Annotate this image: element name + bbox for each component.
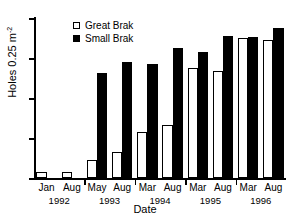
plot-area: 050100150200	[34, 18, 286, 178]
x-tick-label-aug-1996: Aug	[264, 182, 282, 193]
bar-great-brak-mar-1995	[188, 68, 198, 178]
x-axis-group-separator-1993	[84, 178, 85, 185]
bar-great-brak-mar-1994	[137, 132, 147, 178]
y-axis-title-text: Holes 0.25 m	[6, 33, 18, 98]
x-tick-label-mar-1994: Mar	[139, 182, 156, 193]
y-tick-150	[29, 58, 34, 60]
x-tick-label-may-1993: May	[88, 182, 107, 193]
bar-great-brak-mar-1996	[238, 38, 248, 178]
y-tick-100	[29, 98, 34, 100]
bar-small-brak-aug-1994	[173, 48, 183, 178]
bar-small-brak-mar-1994	[147, 64, 157, 178]
bar-small-brak-mar-1995	[198, 52, 208, 178]
bar-small-brak-aug-1993	[122, 62, 132, 178]
bar-chart-figure: Holes 0.25 m-2 050100150200 JanAugMayAug…	[0, 0, 290, 216]
bar-great-brak-aug-1992	[62, 172, 72, 178]
x-tick-label-aug-1993: Aug	[113, 182, 131, 193]
y-tick-50	[29, 138, 34, 140]
legend-item-small-brak: Small Brak	[73, 32, 133, 44]
legend-label-great-brak: Great Brak	[85, 20, 133, 31]
bar-small-brak-may-1993	[97, 73, 107, 178]
bar-great-brak-may-1993	[87, 160, 97, 178]
x-tick-label-aug-1992: Aug	[63, 182, 81, 193]
x-axis-group-separator-1994	[135, 178, 136, 185]
x-tick-label-mar-1995: Mar	[189, 182, 206, 193]
x-axis-group-separator-1996	[236, 178, 237, 185]
bar-small-brak-aug-1995	[223, 36, 233, 178]
y-axis-title-exponent: -2	[6, 27, 13, 33]
y-axis-title: Holes 0.25 m-2	[6, 2, 19, 122]
bar-small-brak-aug-1996	[273, 28, 283, 178]
legend-swatch-black-square-icon	[73, 35, 80, 42]
bar-great-brak-aug-1996	[263, 40, 273, 178]
chart-legend: Great Brak Small Brak	[73, 19, 133, 45]
x-axis-title: Date	[0, 203, 290, 215]
bar-small-brak-mar-1996	[248, 37, 258, 178]
legend-item-great-brak: Great Brak	[73, 19, 133, 31]
x-axis-group-separator-1995	[185, 178, 186, 185]
x-axis-line	[34, 178, 286, 180]
legend-swatch-white-square-icon	[73, 22, 80, 29]
bar-great-brak-aug-1993	[112, 152, 122, 178]
x-tick-label-aug-1994: Aug	[164, 182, 182, 193]
bar-great-brak-aug-1994	[162, 125, 172, 178]
x-tick-label-aug-1995: Aug	[214, 182, 232, 193]
x-tick-label-jan-1992: Jan	[39, 182, 55, 193]
y-tick-0	[29, 178, 34, 180]
y-tick-200	[29, 18, 34, 20]
bar-great-brak-aug-1995	[213, 71, 223, 178]
legend-label-small-brak: Small Brak	[85, 33, 133, 44]
bar-great-brak-jan-1992	[36, 172, 46, 178]
x-tick-label-mar-1996: Mar	[240, 182, 257, 193]
